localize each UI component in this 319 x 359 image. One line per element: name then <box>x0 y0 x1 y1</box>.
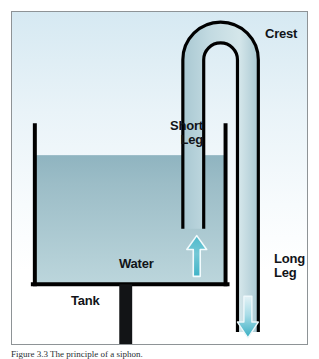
label-short-leg-line2: Leg <box>180 132 203 147</box>
label-long-leg-line2: Leg <box>274 265 297 280</box>
siphon-diagram-svg <box>12 12 307 344</box>
label-long-leg: LongLeg <box>274 252 305 279</box>
tank-stand <box>119 284 132 344</box>
label-short-leg: ShortLeg <box>159 119 203 146</box>
figure-caption: Figure 3.3 The principle of a siphon. <box>11 349 311 359</box>
illustration-panel: Crest ShortLeg LongLeg Water Tank <box>11 11 308 345</box>
label-tank: Tank <box>71 294 100 308</box>
label-crest: Crest <box>265 27 297 41</box>
label-water: Water <box>119 257 154 271</box>
